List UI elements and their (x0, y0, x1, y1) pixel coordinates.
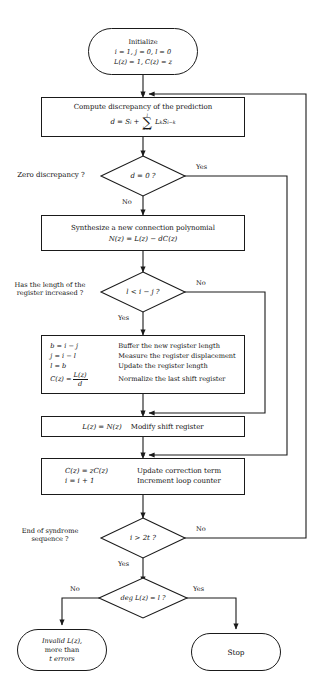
deg-check-no-text: No (70, 585, 80, 593)
update-row-4-fraction: L(z) d (73, 372, 88, 387)
terminal-initialize: Initialize i = 1, j = 0, l = 0 L(z) = 1,… (88, 28, 198, 75)
discrepancy-plus: + (134, 118, 140, 126)
update-row-3-rhs: Update the register length (118, 362, 235, 371)
update-row-4-denominator: d (77, 380, 83, 387)
end-of-syndrome-yes-text: Yes (118, 560, 129, 568)
update-row-2-lhs: j = i − l (50, 352, 108, 361)
deg-check-condition: deg L(z) = l ? (99, 578, 187, 618)
zero-discrepancy-yes-text: Yes (196, 163, 207, 171)
modify-shift-register-row: L(z) = N(z) Modify shift register (82, 423, 203, 431)
deg-check-yes-text: Yes (193, 585, 204, 593)
label-zero-discrepancy: Zero discrepancy ? (6, 171, 96, 180)
label-length-increased: Has the length of the register increased… (4, 281, 96, 297)
terminal-stop: Stop (191, 633, 281, 671)
process-modify-shift-register: L(z) = N(z) Modify shift register (41, 416, 245, 437)
end-of-syndrome-side-text-1: End of syndrome (4, 527, 96, 535)
invalid-line-3: t errors (49, 655, 74, 663)
edge-label-length-increased-no: No (196, 279, 206, 287)
length-increased-yes-text: Yes (118, 314, 129, 322)
length-increased-side-text-1: Has the length of the (4, 281, 96, 289)
sum-lower-limit: k=1 (143, 127, 152, 131)
zero-discrepancy-no-text: No (122, 198, 132, 206)
process-synthesise-polynomial: Synthesize a new connection polynomial N… (41, 215, 245, 251)
decision-length-increased: l < i − j ? (101, 272, 185, 312)
update-row-1-lhs: b = i − j (50, 342, 108, 351)
edge-label-zero-discrepancy-yes: Yes (196, 163, 207, 171)
edge-label-end-of-syndrome-yes: Yes (118, 560, 129, 568)
invalid-line-2: more than (45, 646, 79, 654)
update-row-1-rhs: Buffer the new register length (118, 342, 235, 351)
decision-zero-discrepancy: d = 0 ? (101, 156, 185, 196)
terminal-invalid-lz: Invalid L(z), more than t errors (17, 629, 107, 671)
modify-shift-register-lhs: L(z) = N(z) (82, 423, 121, 431)
correction-row-2-rhs: Increment loop counter (137, 477, 221, 486)
decision-deg-check: deg L(z) = l ? (99, 578, 187, 618)
length-increased-no-text: No (196, 279, 206, 287)
modify-shift-register-rhs: Modify shift register (131, 423, 204, 431)
length-increased-condition: l < i − j ? (101, 272, 185, 312)
update-correction-rows: C(z) = zC(z) Update correction term i = … (65, 467, 221, 487)
end-of-syndrome-condition: i > 2t ? (101, 518, 185, 558)
stop-line-1: Stop (227, 648, 244, 657)
zero-discrepancy-side-text: Zero discrepancy ? (17, 171, 85, 179)
edge-label-deg-check-yes: Yes (193, 585, 204, 593)
update-row-4-lhs: C(z) = L(z) d (50, 372, 108, 387)
edge-label-zero-discrepancy-no: No (122, 198, 132, 206)
end-of-syndrome-side-text-2: sequence ? (4, 535, 96, 543)
correction-row-2-lhs: i = i + 1 (65, 477, 127, 486)
edge-label-deg-check-no: No (70, 585, 80, 593)
process-update-registers: b = i − j Buffer the new register length… (41, 335, 245, 394)
update-row-4-numerator: L(z) (73, 372, 88, 380)
compute-discrepancy-title: Compute discrepancy of the prediction (74, 103, 212, 111)
update-row-3-lhs: l = b (50, 362, 108, 371)
initialize-line-3: L(z) = 1, C(z) = z (114, 58, 172, 66)
synthesise-formula: N(z) = L(z) − dC(z) (109, 235, 178, 243)
decision-end-of-syndrome: i > 2t ? (101, 518, 185, 558)
flowchart-canvas: Initialize i = 1, j = 0, l = 0 L(z) = 1,… (0, 0, 320, 689)
sum-body-S-sub: i−k (167, 120, 175, 125)
invalid-line-1: Invalid L(z), (42, 637, 82, 645)
edge-label-length-increased-yes: Yes (118, 314, 129, 322)
edge-label-end-of-syndrome-no: No (196, 525, 206, 533)
update-registers-rows: b = i − j Buffer the new register length… (50, 342, 235, 387)
correction-row-1-lhs: C(z) = zC(z) (65, 467, 127, 476)
end-of-syndrome-no-text: No (196, 525, 206, 533)
correction-row-1-rhs: Update correction term (137, 467, 221, 476)
initialize-line-2: i = 1, j = 0, l = 0 (115, 48, 171, 56)
summation-symbol: l ∑ k=1 (142, 114, 152, 132)
discrepancy-lhs-sub: i (130, 120, 132, 125)
initialize-line-1: Initialize (128, 38, 157, 46)
update-row-2-rhs: Measure the register displacement (118, 352, 235, 361)
label-end-of-syndrome: End of syndrome sequence ? (4, 527, 96, 543)
update-row-4-lhs-pre: C(z) = (50, 375, 71, 384)
process-compute-discrepancy: Compute discrepancy of the prediction d … (41, 97, 245, 137)
update-row-4-rhs: Normalize the last shift register (118, 375, 235, 384)
discrepancy-lhs: d = S (110, 118, 130, 126)
compute-discrepancy-formula: d = Si + l ∑ k=1 LkSi−k (110, 114, 175, 132)
length-increased-side-text-2: register increased ? (4, 289, 96, 297)
zero-discrepancy-condition: d = 0 ? (101, 156, 185, 196)
synthesise-title: Synthesize a new connection polynomial (71, 224, 215, 232)
process-update-correction-term: C(z) = zC(z) Update correction term i = … (41, 458, 245, 495)
